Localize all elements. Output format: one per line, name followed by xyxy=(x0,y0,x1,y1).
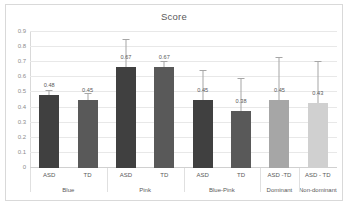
error-bar-cap xyxy=(276,57,283,58)
chart-frame: Score 0.90.80.70.60.50.40.30.20.10 0.480… xyxy=(5,4,343,201)
y-axis-tick-label: 0.2 xyxy=(18,134,26,140)
bar-value-label: 0.43 xyxy=(312,90,323,96)
group-label: Pink xyxy=(107,187,184,193)
group-separator xyxy=(299,168,300,192)
group-label: Dominant xyxy=(260,187,298,193)
category-label: ASD xyxy=(184,172,222,178)
group-separator xyxy=(184,168,185,192)
y-axis-tick-label: 0.5 xyxy=(18,88,26,94)
y-axis-tick-label: 0.1 xyxy=(18,149,26,155)
bar-slot: 0.45 xyxy=(260,32,298,168)
group-label: Non-dominant xyxy=(299,187,337,193)
chart-title: Score xyxy=(6,11,342,22)
category-label: TD xyxy=(222,172,260,178)
bar-value-label: 0.38 xyxy=(236,98,247,104)
bar-value-label: 0.67 xyxy=(120,54,131,60)
bar[interactable] xyxy=(39,95,59,168)
bar-slot: 0.67 xyxy=(145,32,183,168)
bar[interactable] xyxy=(193,100,213,168)
bar-slot: 0.38 xyxy=(222,32,260,168)
bar[interactable] xyxy=(308,103,328,168)
category-label: TD xyxy=(68,172,106,178)
error-bar-cap xyxy=(161,61,168,62)
bar-value-label: 0.45 xyxy=(197,87,208,93)
group-separator xyxy=(30,168,31,192)
category-label: ASD - TD xyxy=(299,172,337,178)
bar-slot: 0.45 xyxy=(184,32,222,168)
bar-value-label: 0.48 xyxy=(44,82,55,88)
bar-value-label: 0.45 xyxy=(82,87,93,93)
error-bar xyxy=(279,58,280,100)
y-axis-tick-label: 0.8 xyxy=(18,43,26,49)
category-label: ASD -TD xyxy=(260,172,298,178)
y-axis-tick-label: 0.7 xyxy=(18,58,26,64)
bar-slot: 0.43 xyxy=(299,32,337,168)
error-bar xyxy=(241,79,242,111)
bar-slot: 0.45 xyxy=(68,32,106,168)
category-axis: ASDTDASDTDASDTDASD -TDASD - TDBluePinkBl… xyxy=(30,168,337,204)
error-bar-cap xyxy=(122,39,129,40)
error-bar-cap xyxy=(84,93,91,94)
y-axis-tick-label: 0.6 xyxy=(18,73,26,79)
group-separator xyxy=(107,168,108,192)
category-label: TD xyxy=(145,172,183,178)
bar[interactable] xyxy=(231,111,251,168)
error-bar xyxy=(317,62,318,103)
bar[interactable] xyxy=(116,67,136,168)
y-axis-tick-label: 0.4 xyxy=(18,104,26,110)
plot-area: 0.90.80.70.60.50.40.30.20.10 0.480.450.6… xyxy=(30,32,337,168)
y-axis-tick-label: 0.3 xyxy=(18,119,26,125)
bar[interactable] xyxy=(269,100,289,168)
y-axis-tick-label: 0.9 xyxy=(18,28,26,34)
error-bar-cap xyxy=(314,61,321,62)
bar[interactable] xyxy=(154,67,174,168)
group-separator xyxy=(260,168,261,192)
bar[interactable] xyxy=(78,100,98,168)
bar-slot: 0.67 xyxy=(107,32,145,168)
bar-value-label: 0.67 xyxy=(159,54,170,60)
category-label: ASD xyxy=(107,172,145,178)
bar-value-label: 0.45 xyxy=(274,87,285,93)
error-bar xyxy=(202,71,203,100)
group-label: Blue xyxy=(30,187,107,193)
bar-slot: 0.48 xyxy=(30,32,68,168)
y-axis-tick-label: 0 xyxy=(23,164,26,170)
error-bar-cap xyxy=(199,70,206,71)
error-bar-cap xyxy=(46,90,53,91)
error-bar-cap xyxy=(238,78,245,79)
group-label: Blue-Pink xyxy=(184,187,261,193)
category-label: ASD xyxy=(30,172,68,178)
